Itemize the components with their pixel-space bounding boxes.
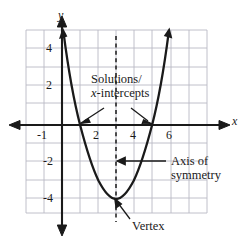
y-tick-label-2: 2: [46, 78, 52, 93]
y-tick-label-4: 4: [46, 41, 52, 56]
y-axis-arrow-down: [57, 225, 66, 236]
solutions-annotation-line1: Solutions/: [91, 72, 149, 86]
x-tick-label-minus-1: -1: [37, 128, 47, 143]
y-tick-label-minus-4: -4: [43, 191, 53, 206]
x-tick-label-4: 4: [130, 128, 136, 143]
solutions-annotation-intercepts: -intercepts: [97, 86, 150, 100]
axis-of-symmetry-annotation: Axis of symmetry: [171, 154, 221, 182]
x-axis-label: x: [232, 114, 237, 129]
vertex-annotation: Vertex: [132, 219, 165, 233]
y-tick-label-minus-2: -2: [43, 154, 53, 169]
solutions-annotation: Solutions/ x-intercepts: [91, 72, 149, 100]
y-axis-label: y: [58, 8, 63, 23]
x-axis-arrow-right: [219, 121, 230, 130]
axis-of-symmetry-line1: Axis of: [171, 154, 221, 168]
graph-canvas: [0, 0, 245, 241]
x-tick-label-2: 2: [93, 128, 99, 143]
solutions-annotation-line2: x-intercepts: [91, 86, 149, 100]
figure-parabola-graph: 4 2 -2 -4 -1 2 4 6 y x Solutions/ x-inte…: [0, 0, 245, 241]
x-tick-label-6: 6: [166, 128, 172, 143]
axis-of-symmetry-line2: symmetry: [171, 168, 221, 182]
x-axis-arrow-left: [9, 121, 20, 130]
